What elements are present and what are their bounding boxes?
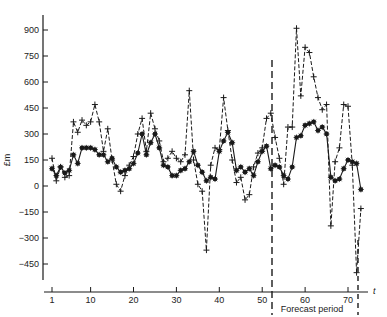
- plus-marker: [281, 181, 287, 187]
- plus-marker: [165, 155, 171, 161]
- plus-marker: [139, 115, 145, 121]
- y-tick-label: 450: [24, 103, 39, 113]
- series-group: [49, 25, 364, 275]
- y-tick-label: −150: [19, 207, 39, 217]
- plus-marker: [199, 188, 205, 194]
- plus-marker: [100, 148, 106, 154]
- x-tick-label: 30: [171, 295, 181, 305]
- plus-marker: [294, 25, 300, 31]
- plus-marker: [298, 93, 304, 99]
- plus-marker: [208, 162, 214, 168]
- forecast-period-markers: Forecast period: [272, 60, 358, 315]
- plus-marker: [311, 74, 317, 80]
- plus-marker: [113, 181, 119, 187]
- plus-marker: [328, 223, 334, 229]
- x-axis: 110203040506070t: [44, 286, 376, 305]
- plus-marker: [332, 159, 338, 165]
- plus-marker: [358, 206, 364, 212]
- plus-marker: [148, 110, 154, 116]
- plus-marker: [203, 247, 209, 253]
- plus-marker: [156, 138, 162, 144]
- plus-marker: [49, 155, 55, 161]
- y-tick-label: 750: [24, 51, 39, 61]
- x-tick-label: 50: [257, 295, 267, 305]
- y-tick-label: 600: [24, 77, 39, 87]
- plus-marker: [169, 148, 175, 154]
- plus-marker: [186, 88, 192, 94]
- y-tick-label: 900: [24, 25, 39, 35]
- plus-marker: [75, 129, 81, 135]
- plus-marker: [118, 188, 124, 194]
- plus-marker: [324, 102, 330, 108]
- plus-marker: [70, 119, 76, 125]
- plus-marker: [315, 95, 321, 101]
- x-tick-label: 1: [49, 295, 54, 305]
- plus-marker: [96, 119, 102, 125]
- x-tick-label: 10: [86, 295, 96, 305]
- y-tick-label: −450: [19, 259, 39, 269]
- plus-marker: [289, 124, 295, 130]
- plus-marker: [195, 181, 201, 187]
- y-tick-label: 300: [24, 129, 39, 139]
- forecast-period-label: Forecast period: [281, 304, 344, 314]
- y-tick-label: 0: [34, 181, 39, 191]
- plus-marker: [302, 44, 308, 50]
- plus-marker: [268, 110, 274, 116]
- y-axis: −450−300−1500150300450600750900£m: [2, 15, 48, 280]
- plus-marker: [272, 134, 278, 140]
- x-tick-label: 70: [343, 295, 353, 305]
- y-tick-label: 150: [24, 155, 39, 165]
- y-axis-title: £m: [2, 154, 12, 167]
- plus-marker: [122, 173, 128, 179]
- plus-marker: [336, 145, 342, 151]
- plus-marker: [182, 152, 188, 158]
- y-tick-label: −300: [19, 233, 39, 243]
- plus-marker: [221, 95, 227, 101]
- plus-marker: [276, 155, 282, 161]
- plus-marker: [53, 178, 59, 184]
- x-axis-title: t: [373, 286, 376, 296]
- plus-marker: [92, 102, 98, 108]
- plus-marker: [161, 159, 167, 165]
- x-tick-label: 40: [214, 295, 224, 305]
- x-tick-label: 20: [129, 295, 139, 305]
- series-dashed-plus-line: [52, 28, 361, 272]
- plus-marker: [319, 107, 325, 113]
- line-chart: −450−300−1500150300450600750900£m 110203…: [0, 0, 387, 317]
- plus-marker: [152, 126, 158, 132]
- plus-marker: [105, 126, 111, 132]
